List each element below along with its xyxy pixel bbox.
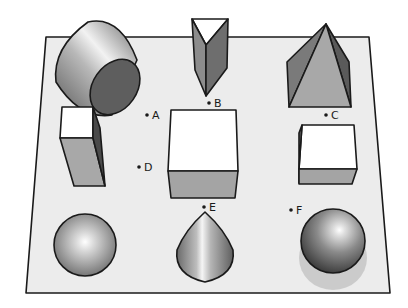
large-cube-shape	[168, 110, 238, 198]
diagram-canvas: A B C D E F	[0, 0, 408, 308]
point-c-label: C	[331, 109, 339, 122]
point-e-label: E	[209, 201, 216, 214]
solids-diagram: A B C D E F	[0, 0, 408, 308]
point-a-label: A	[152, 109, 160, 122]
point-b-label: B	[214, 97, 222, 110]
small-cube-shape	[299, 125, 357, 184]
glossy-sphere-shape	[299, 209, 367, 290]
matte-sphere-shape	[54, 214, 116, 276]
point-d-label: D	[144, 161, 152, 174]
point-f-label: F	[296, 204, 302, 217]
